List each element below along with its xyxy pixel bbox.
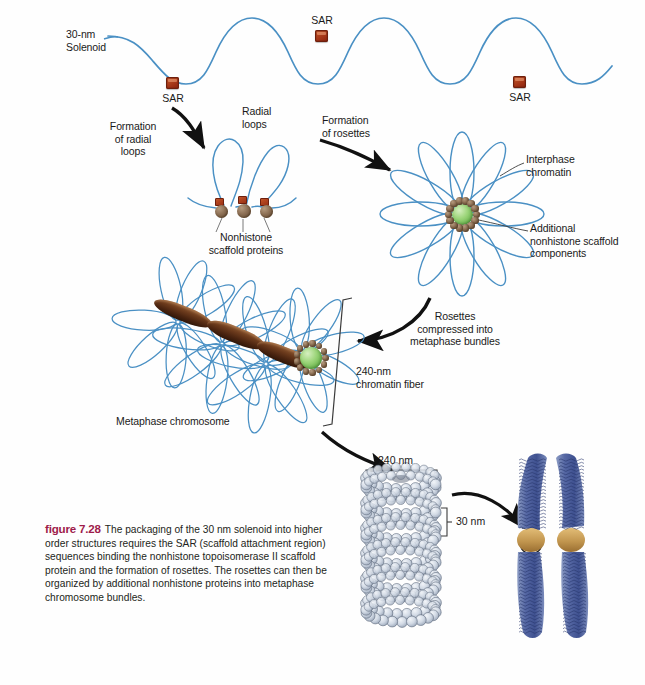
nucleosome-sphere <box>428 585 439 596</box>
nucleosome-sphere <box>367 604 378 615</box>
nucleosome-sphere <box>386 471 395 480</box>
nucleosome-sphere <box>429 576 440 587</box>
chromatin-texture-stroke <box>563 587 586 589</box>
nucleosome-sphere <box>407 616 418 627</box>
nucleosome-sphere <box>367 568 376 577</box>
solenoid-wave <box>108 18 612 84</box>
nucleosome-sphere <box>391 563 400 572</box>
measure-label-30nm: 30 nm <box>456 515 485 528</box>
nucleosome-sphere <box>381 589 390 598</box>
nucleosome-sphere <box>423 613 434 624</box>
label-30nm-solenoid: 30-nm Solenoid <box>66 28 140 53</box>
nucleosome-sphere <box>428 535 439 546</box>
chromatin-texture-stroke <box>519 573 542 575</box>
nucleosome-sphere <box>406 521 415 530</box>
nucleosome-sphere <box>364 552 373 561</box>
nucleosome-sphere <box>364 602 373 611</box>
nucleosome-sphere <box>425 592 434 601</box>
nucleosome-sphere <box>362 601 373 612</box>
nucleosome-sphere <box>369 488 380 499</box>
nucleosome-sphere <box>419 481 430 492</box>
nucleosome-sphere <box>396 545 405 554</box>
nucleosome-sphere <box>415 540 426 551</box>
nucleosome-sphere <box>406 591 417 602</box>
nucleosome-sphere <box>410 508 421 519</box>
nucleosome-sphere <box>423 563 434 574</box>
nucleosome-sphere <box>364 527 373 536</box>
nucleosome-sphere <box>392 609 403 620</box>
nucleosome-sphere <box>373 540 382 549</box>
chromatin-texture-stroke <box>559 459 584 461</box>
nucleosome-sphere <box>395 595 404 604</box>
chromatin-texture-stroke <box>519 517 546 519</box>
nucleosome-sphere <box>396 517 407 528</box>
label-additional-nonhistone: Additional nonhistone scaffold component… <box>530 222 640 260</box>
chromatin-texture-stroke <box>519 476 546 478</box>
nucleosome-sphere <box>367 468 376 477</box>
nucleosome-sphere <box>428 602 437 611</box>
nucleosome-sphere <box>426 517 435 526</box>
chromatin-texture-stroke <box>519 503 546 505</box>
chromatin-texture-stroke <box>559 490 584 492</box>
nucleosome-sphere <box>401 488 410 497</box>
nucleosome-sphere <box>391 584 402 595</box>
chromatin-texture-stroke <box>519 584 542 586</box>
nucleosome-sphere <box>430 545 439 554</box>
nucleosome-sphere <box>429 501 440 512</box>
chromatin-texture-stroke <box>563 567 586 569</box>
nucleosome-sphere <box>377 565 388 576</box>
chromatin-texture-stroke <box>519 507 546 509</box>
nucleosome-sphere <box>396 567 407 578</box>
nucleosome-sphere <box>411 558 422 569</box>
nucleosome-sphere <box>422 599 431 608</box>
scaffold-bead <box>303 341 310 348</box>
nucleosome-sphere <box>429 600 440 611</box>
nucleosome-sphere <box>431 572 442 583</box>
nucleosome-sphere <box>406 491 417 502</box>
chromatin-texture-stroke <box>559 524 584 526</box>
chromatin-texture-stroke <box>519 577 542 579</box>
sar-block-left <box>166 77 179 89</box>
nucleosome-sphere <box>377 547 386 556</box>
nucleosome-sphere <box>363 546 372 555</box>
chromatin-texture-stroke <box>519 587 542 589</box>
chromatin-texture-stroke <box>563 607 586 609</box>
nucleosome-sphere <box>411 488 420 497</box>
nucleosome-sphere <box>426 542 435 551</box>
nucleosome-sphere <box>401 534 412 545</box>
nucleosome-sphere <box>386 491 397 502</box>
nucleosome-sphere <box>422 549 431 558</box>
sar-mini-center <box>238 196 247 204</box>
chromatin-texture-stroke <box>519 601 542 603</box>
nucleosome-sphere <box>370 549 379 558</box>
chromatin-texture-stroke <box>519 479 546 481</box>
nucleosome-sphere <box>406 516 417 527</box>
chromatin-texture-stroke <box>563 601 586 603</box>
nucleosome-sphere <box>364 577 373 586</box>
chromatin-texture-stroke <box>563 590 586 592</box>
chromatin-texture-stroke <box>559 469 584 471</box>
chromosome-callout-circle <box>520 532 542 554</box>
nucleosome-sphere <box>422 488 433 499</box>
nucleosome-sphere <box>373 565 382 574</box>
nucleosome-sphere <box>426 468 435 477</box>
chromatin-texture-stroke <box>519 618 542 620</box>
nucleosome-sphere <box>423 524 432 533</box>
nucleosome-sphere <box>382 583 393 594</box>
nucleosome-sphere <box>430 482 441 493</box>
nucleosome-sphere <box>411 608 422 619</box>
chromatin-texture-stroke <box>519 611 542 613</box>
chromatin-texture-stroke <box>563 621 586 623</box>
scaffold-bead <box>321 361 328 368</box>
nucleosome-sphere <box>430 557 441 568</box>
nucleosome-sphere <box>391 509 402 520</box>
scaffold-bead <box>294 358 301 365</box>
nucleosome-sphere <box>370 499 379 508</box>
nucleosome-sphere <box>373 490 382 499</box>
nucleosome-sphere <box>391 588 400 597</box>
nucleosome-sphere <box>386 496 395 505</box>
nucleosome-sphere <box>381 483 392 494</box>
scaffold-bead-right <box>260 205 273 218</box>
nucleosome-sphere <box>414 597 423 606</box>
label-radial-loops: Radial loops <box>242 105 302 130</box>
